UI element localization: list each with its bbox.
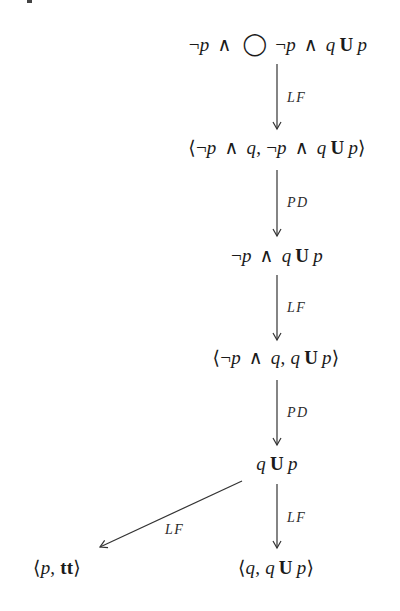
- edge-label-n2-n3: PD: [287, 195, 309, 211]
- negation-symbol: ¬: [196, 137, 207, 158]
- node-leaf-until: ⟨q, qUp⟩: [238, 556, 314, 580]
- and-symbol: ∧: [214, 34, 234, 55]
- until-operator: U: [279, 557, 293, 578]
- prop-var: q: [247, 137, 257, 158]
- negation-symbol: ¬: [275, 34, 286, 55]
- right-angle-bracket: ⟩: [306, 557, 314, 578]
- prop-var: p: [277, 137, 287, 158]
- left-angle-bracket: ⟨: [188, 137, 196, 158]
- and-symbol: ∧: [301, 34, 321, 55]
- comma: ,: [281, 347, 286, 368]
- prop-var: q: [282, 245, 292, 266]
- edge-label-n4-n5: PD: [287, 405, 309, 421]
- comma: ,: [255, 557, 260, 578]
- prop-var: q: [256, 453, 266, 474]
- negation-symbol: ¬: [231, 245, 242, 266]
- until-operator: U: [304, 347, 318, 368]
- prop-var: p: [207, 137, 217, 158]
- and-symbol: ∧: [221, 137, 241, 158]
- next-operator-icon: ◯: [239, 31, 270, 56]
- prop-var: p: [231, 347, 241, 368]
- prop-var: q: [317, 137, 327, 158]
- true-constant: tt: [60, 557, 73, 578]
- node-pair-2: ⟨¬p ∧ q, ¬p ∧ qUp⟩: [188, 136, 365, 160]
- prop-var: p: [288, 453, 298, 474]
- edge-label-n3-n4: LF: [287, 300, 306, 316]
- edge-label-n1-n2: LF: [287, 90, 306, 106]
- comma: ,: [256, 137, 261, 158]
- until-operator: U: [330, 137, 344, 158]
- edge-label-n5-n6: LF: [165, 522, 184, 538]
- until-operator: U: [295, 245, 309, 266]
- and-symbol: ∧: [292, 137, 312, 158]
- node-pair-4: ⟨¬p ∧ q, qUp⟩: [213, 346, 340, 370]
- prop-var: q: [271, 347, 281, 368]
- right-angle-bracket: ⟩: [73, 557, 81, 578]
- right-angle-bracket: ⟩: [358, 137, 366, 158]
- prop-var: p: [41, 557, 51, 578]
- prop-var: p: [357, 34, 367, 55]
- negation-symbol: ¬: [220, 347, 231, 368]
- and-symbol: ∧: [246, 347, 266, 368]
- until-operator: U: [340, 34, 354, 55]
- comma: ,: [50, 557, 55, 578]
- node-formula-3: ¬p ∧ qUp: [231, 244, 323, 268]
- prop-var: p: [348, 137, 358, 158]
- prop-var: q: [246, 557, 256, 578]
- node-formula-1: ¬p ∧ ◯ ¬p ∧ qUp: [189, 32, 367, 57]
- left-angle-bracket: ⟨: [213, 347, 221, 368]
- and-symbol: ∧: [257, 245, 277, 266]
- until-operator: U: [270, 453, 284, 474]
- left-angle-bracket: ⟨: [238, 557, 246, 578]
- prop-var: p: [297, 557, 307, 578]
- prop-var: p: [322, 347, 332, 368]
- prop-var: q: [265, 557, 275, 578]
- right-angle-bracket: ⟩: [332, 347, 340, 368]
- prop-var: p: [200, 34, 210, 55]
- edge-label-n5-n7: LF: [287, 510, 306, 526]
- prop-var: q: [290, 347, 300, 368]
- prop-var: p: [242, 245, 252, 266]
- cropped-glyph-fragment: [27, 0, 32, 3]
- edges-layer: [0, 0, 400, 611]
- node-formula-5: qUp: [256, 452, 297, 476]
- prop-var: p: [313, 245, 323, 266]
- left-angle-bracket: ⟨: [33, 557, 41, 578]
- node-leaf-true: ⟨p, tt⟩: [33, 556, 81, 580]
- negation-symbol: ¬: [266, 137, 277, 158]
- prop-var: p: [286, 34, 296, 55]
- prop-var: q: [326, 34, 336, 55]
- negation-symbol: ¬: [189, 34, 200, 55]
